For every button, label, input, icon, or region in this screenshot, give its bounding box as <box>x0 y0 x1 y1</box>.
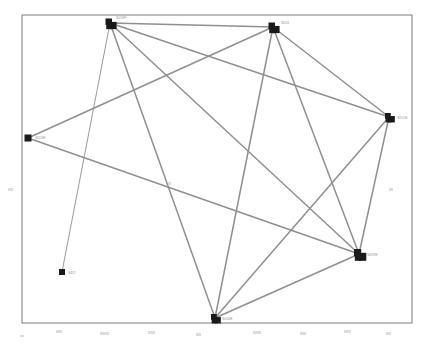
background-speck <box>56 330 62 333</box>
node-marker <box>106 24 112 30</box>
node-label: 3417 <box>68 271 76 275</box>
node-marker <box>386 117 392 122</box>
background-speck <box>20 335 24 337</box>
node-label: 3014 <box>281 21 289 25</box>
node-label: 3015E <box>397 116 408 120</box>
background-speck <box>168 182 171 185</box>
background-speck <box>300 332 306 335</box>
background-speck <box>344 330 351 333</box>
background-speck <box>148 331 155 334</box>
node-marker <box>25 135 32 142</box>
node-label: 3013E <box>35 136 46 140</box>
node-marker <box>59 269 65 275</box>
graph-frame-group <box>22 15 412 323</box>
background-speck <box>100 332 109 335</box>
background-speck <box>253 331 261 334</box>
node-label: 3016E <box>222 317 233 321</box>
background-speck <box>8 188 13 191</box>
background-speck <box>386 332 391 335</box>
network-graph-canvas: 3018F30143015E3013E3019E34173016E <box>0 0 432 346</box>
graph-frame <box>22 15 412 323</box>
node-marker <box>269 28 275 34</box>
node-marker <box>355 255 362 261</box>
background-speck <box>196 333 201 336</box>
background-speck <box>389 188 393 191</box>
node-label: 3018F <box>116 16 126 20</box>
node-marker <box>212 318 218 323</box>
node-label: 3019E <box>367 253 378 257</box>
